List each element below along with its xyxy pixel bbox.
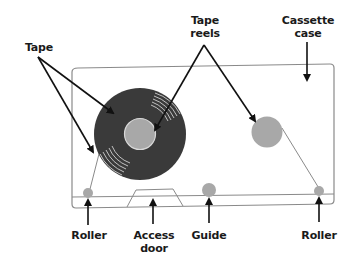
label-roller-left: Roller xyxy=(68,229,110,242)
label-cassette-case: Cassette case xyxy=(280,14,336,40)
arrow-tape-to-path xyxy=(38,57,93,152)
label-guide-text: Guide xyxy=(192,229,227,242)
arrow-reels-to-right xyxy=(204,45,255,121)
label-guide: Guide xyxy=(190,229,228,242)
label-roller-right: Roller xyxy=(298,229,340,242)
access-door xyxy=(127,189,183,207)
label-access-door-line1: Access xyxy=(131,229,177,242)
label-access-door-line2: door xyxy=(131,242,177,255)
label-cassette-case-line2: case xyxy=(280,27,336,40)
label-tape-reels-line1: Tape xyxy=(186,14,224,27)
guide xyxy=(202,183,216,197)
label-access-door: Access door xyxy=(131,229,177,255)
label-tape-reels: Tape reels xyxy=(186,14,224,40)
label-tape-reels-line2: reels xyxy=(186,27,224,40)
label-tape-text: Tape xyxy=(25,41,53,54)
roller-left xyxy=(83,188,93,198)
label-tape: Tape xyxy=(22,41,56,54)
label-roller-right-text: Roller xyxy=(301,229,336,242)
label-cassette-case-line1: Cassette xyxy=(280,14,336,27)
roller-right xyxy=(314,186,324,196)
tape-reel-right xyxy=(252,117,283,148)
label-roller-left-text: Roller xyxy=(71,229,106,242)
tape-reel-left xyxy=(94,88,186,180)
arrow-tape-to-reel xyxy=(38,57,113,113)
